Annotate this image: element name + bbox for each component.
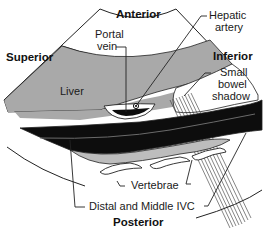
label-posterior: Posterior bbox=[113, 216, 164, 228]
label-small-bowel-3: shadow bbox=[212, 90, 250, 102]
label-hepatic-artery-2: artery bbox=[215, 21, 244, 33]
label-portal-vein-1: Portal bbox=[95, 28, 124, 40]
vertebrae-leader bbox=[117, 181, 125, 186]
label-inferior: Inferior bbox=[213, 50, 253, 62]
label-ivc: Distal and Middle IVC bbox=[89, 200, 195, 212]
label-vertebrae: Vertebrae bbox=[131, 179, 179, 191]
label-hepatic-artery-1: Hepatic bbox=[209, 9, 247, 21]
portal-vein bbox=[104, 103, 155, 119]
label-small-bowel-2: bowel bbox=[218, 78, 247, 90]
label-portal-vein-2: vein bbox=[97, 40, 117, 52]
label-superior: Superior bbox=[6, 51, 54, 63]
label-liver: Liver bbox=[60, 85, 84, 97]
label-small-bowel-1: Small bbox=[220, 66, 248, 78]
vertebrae-leader-2 bbox=[186, 160, 192, 184]
ultrasound-diagram: Anterior Superior Inferior Posterior Liv… bbox=[0, 0, 265, 231]
label-anterior: Anterior bbox=[116, 8, 161, 20]
